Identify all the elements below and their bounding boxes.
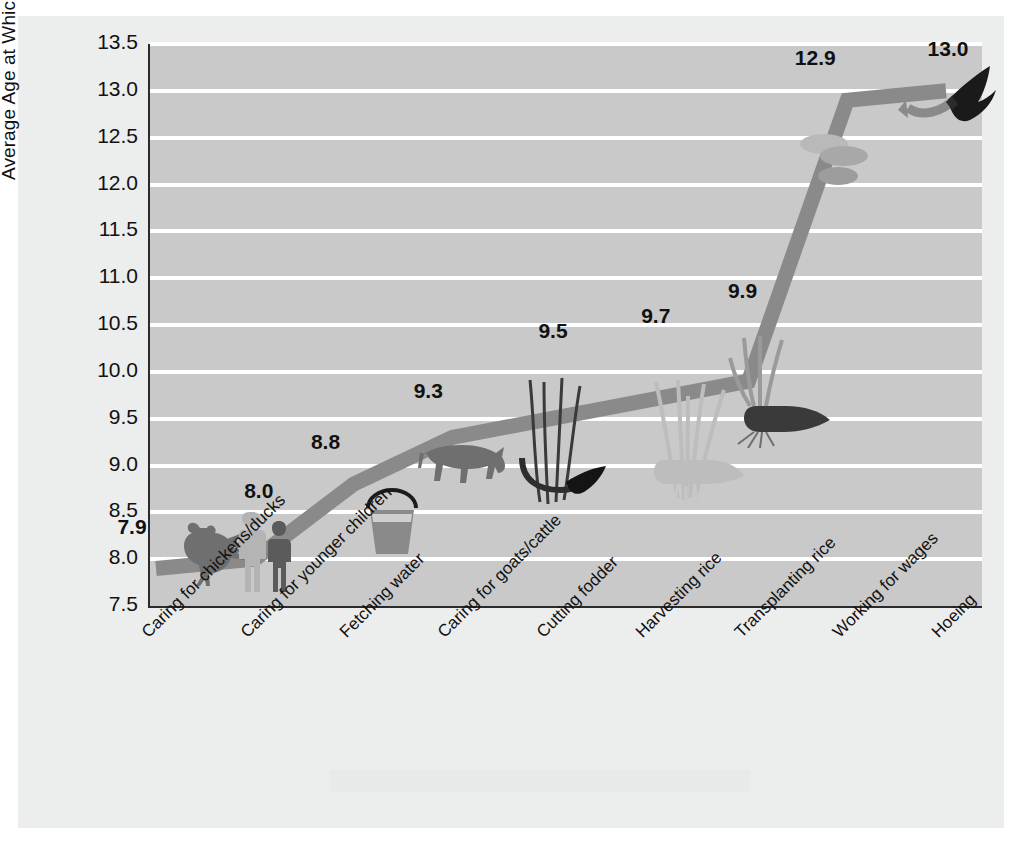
y-axis-tick-label: 8.0: [0, 545, 138, 569]
data-value-label: 9.3: [414, 379, 443, 403]
data-value-label: 8.8: [311, 430, 340, 454]
y-axis-tick-label: 11.0: [0, 264, 138, 288]
cattle-icon: [418, 432, 514, 494]
y-axis-tick-label: 10.5: [0, 311, 138, 335]
hoe-icon: [890, 56, 1010, 174]
y-axis-tick-label: 13.5: [0, 30, 138, 54]
data-value-label: 9.7: [641, 304, 670, 328]
y-axis-tick-label: 12.0: [0, 171, 138, 195]
chart-figure: Average Age at Which Activity Begins 13.…: [0, 0, 1022, 843]
y-axis-tick-label: 13.0: [0, 77, 138, 101]
y-axis-tick-label: 9.5: [0, 405, 138, 429]
y-axis-tick-label: 9.0: [0, 452, 138, 476]
y-axis-tick-label: 10.0: [0, 358, 138, 382]
fodder-sickle-icon: [504, 374, 616, 514]
y-axis-tick-label: 12.5: [0, 124, 138, 148]
y-axis-tick-label: 11.5: [0, 217, 138, 241]
data-value-label: 9.5: [538, 319, 567, 343]
y-axis-tick-label: 7.5: [0, 592, 138, 616]
page-bleedthrough-watermark: [330, 770, 750, 792]
data-value-label: 9.9: [728, 279, 757, 303]
rice-seedling-icon: [720, 332, 836, 448]
data-value-label: 13.0: [928, 37, 969, 61]
data-value-label: 7.9: [117, 515, 146, 539]
coins-icon: [798, 128, 876, 192]
data-value-label: 12.9: [795, 46, 836, 70]
